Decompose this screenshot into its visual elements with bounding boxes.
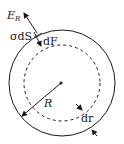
radius-label: R	[43, 97, 52, 110]
force-label: dF	[43, 35, 58, 48]
thickness-label: dr	[81, 112, 94, 125]
surface-charge-label: σdS	[10, 30, 32, 43]
dr-arrow-outer	[92, 130, 97, 136]
field-label: ER	[6, 9, 21, 23]
charged-sphere-diagram: ER σdS dF R dr	[0, 0, 124, 144]
dr-arrow-inner	[76, 104, 82, 110]
